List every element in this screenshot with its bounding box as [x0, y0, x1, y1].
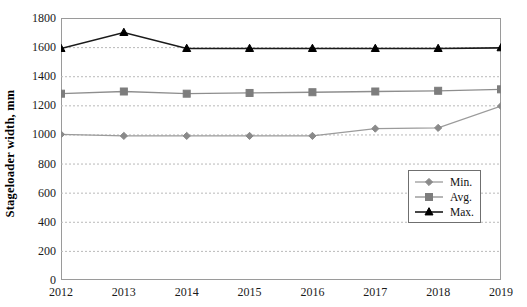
x-axis-tick-label: 2018	[426, 285, 450, 300]
line-chart: Stageloader width, mm 020040060080010001…	[0, 0, 527, 307]
legend-item-label: Avg.	[450, 191, 472, 203]
x-axis-tick-label: 2015	[238, 285, 262, 300]
x-axis-tick-label: 2017	[363, 285, 387, 300]
x-axis-tick-label: 2019	[489, 285, 513, 300]
plot-series-canvas	[61, 18, 501, 281]
x-axis-tick-label: 2016	[300, 285, 324, 300]
series-min	[61, 102, 501, 139]
square-marker-icon	[413, 190, 445, 204]
x-axis-tick-label: 2012	[49, 285, 73, 300]
legend-item-avg[interactable]: Avg.	[413, 189, 474, 204]
series-max	[61, 28, 501, 51]
legend-item-label: Max.	[450, 206, 474, 218]
series-avg	[61, 86, 501, 97]
x-axis-tick-label: 2014	[175, 285, 199, 300]
diamond-marker-icon	[413, 175, 445, 189]
triangle-marker-icon	[413, 205, 445, 219]
legend-item-label: Min.	[450, 176, 472, 188]
legend-item-max[interactable]: Max.	[413, 204, 474, 219]
plot-area	[61, 18, 501, 280]
x-axis-tick-label: 2013	[112, 285, 136, 300]
legend-item-min[interactable]: Min.	[413, 174, 474, 189]
chart-legend: Min.Avg.Max.	[408, 170, 481, 223]
